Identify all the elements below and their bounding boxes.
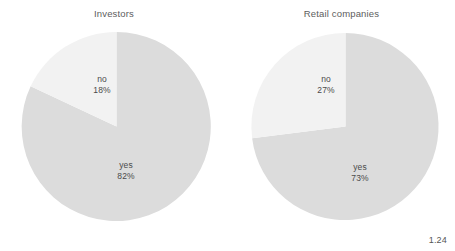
pie-label-investors-yes: yes 82% [106,160,146,182]
pie-label-retail-companies-no-value: 27% [306,85,346,96]
pie-label-retail-companies-yes-value: 73% [340,173,380,184]
pie-label-retail-companies-no-text: no [321,74,331,84]
pie-panel-investors: Investors no 18% yes 82% [0,0,228,251]
pie-chart-figure: Investors no 18% yes 82% Retail companie… [0,0,455,251]
pie-panel-retail-companies: Retail companies no 27% yes 73% [228,0,455,251]
pie-label-investors-yes-text: yes [119,160,133,170]
pie-label-retail-companies-yes-text: yes [353,162,367,172]
pie-label-investors-no: no 18% [82,74,122,96]
pie-chart-retail-companies: no 27% yes 73% [250,31,441,222]
pie-title-investors: Investors [0,8,228,19]
pie-svg-investors [20,30,213,223]
pie-label-investors-no-text: no [97,74,107,84]
figure-caption: 1.24 [429,235,447,245]
pie-chart-investors: no 18% yes 82% [20,30,213,223]
pie-label-retail-companies-yes: yes 73% [340,162,380,184]
pie-label-retail-companies-no: no 27% [306,74,346,96]
pie-svg-retail-companies [250,31,441,222]
pie-label-investors-yes-value: 82% [106,171,146,182]
pie-title-retail-companies: Retail companies [228,8,455,19]
pie-label-investors-no-value: 18% [82,85,122,96]
